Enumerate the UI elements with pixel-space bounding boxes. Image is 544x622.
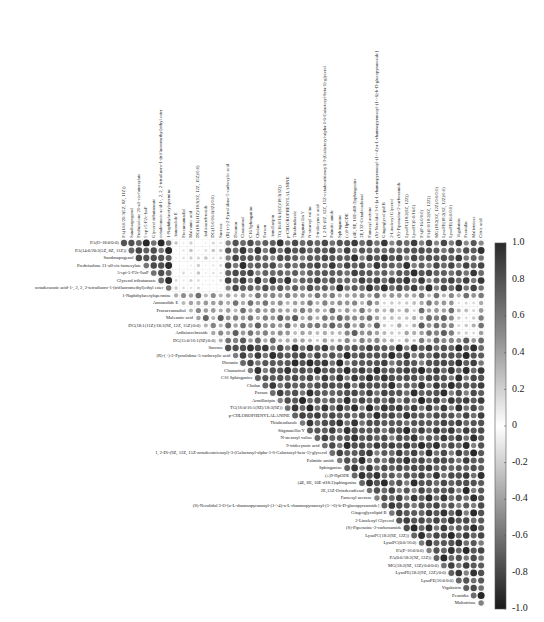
correlation-circle (299, 262, 305, 268)
correlation-circle (352, 278, 358, 284)
correlation-circle (456, 390, 462, 396)
correlation-circle (411, 383, 417, 389)
correlation-circle (456, 525, 462, 531)
correlation-circle (433, 517, 440, 524)
correlation-circle (426, 428, 432, 434)
row-label: (S)-Nerolidol 3-O-[a-L-rhamnopyranosyl-(… (193, 503, 380, 508)
correlation-circle (307, 315, 312, 320)
correlation-circle (292, 315, 298, 321)
correlation-circle (390, 331, 394, 335)
column-label: N-stearoyl valine (307, 206, 312, 238)
correlation-circle (398, 301, 401, 304)
row-label: Gingerglycolipid B (351, 510, 387, 515)
correlation-circle (419, 240, 424, 245)
correlation-circle (189, 249, 193, 253)
correlation-circle (463, 345, 469, 351)
correlation-circle (366, 240, 372, 246)
correlation-circle (373, 412, 380, 419)
correlation-circle (471, 263, 477, 269)
correlation-circle (329, 322, 335, 328)
correlation-circle (263, 293, 268, 298)
correlation-circle (404, 525, 410, 531)
correlation-circle (278, 323, 283, 328)
correlation-circle (404, 397, 410, 403)
correlation-circle (373, 367, 380, 374)
correlation-circle (456, 517, 462, 523)
correlation-circle (448, 532, 455, 539)
correlation-circle (270, 262, 276, 268)
correlation-circle (337, 390, 343, 396)
correlation-circle (174, 241, 178, 245)
correlation-circle (292, 285, 298, 291)
correlation-circle (196, 316, 201, 321)
correlation-circle (396, 442, 402, 448)
correlation-circle (353, 308, 357, 312)
correlation-circle (292, 240, 298, 246)
correlation-circle (471, 547, 477, 553)
correlation-circle (478, 285, 484, 291)
correlation-circle (197, 256, 200, 259)
correlation-circle (478, 592, 485, 599)
correlation-circle (374, 420, 380, 426)
correlation-circle (233, 353, 238, 358)
correlation-circle (456, 338, 461, 343)
correlation-circle (411, 472, 417, 478)
correlation-circle (360, 293, 365, 298)
correlation-circle (382, 428, 388, 434)
correlation-circle (232, 255, 239, 262)
correlation-circle (418, 502, 424, 508)
correlation-circle (449, 240, 454, 245)
correlation-circle (433, 487, 439, 493)
correlation-circle (442, 293, 446, 297)
correlation-circle (248, 300, 254, 306)
correlation-circle (441, 420, 448, 427)
correlation-circle (240, 285, 246, 291)
correlation-circle (396, 383, 402, 389)
correlation-circle (471, 562, 477, 568)
correlation-circle (203, 308, 208, 313)
correlation-circle (426, 533, 432, 539)
correlation-circle (448, 397, 455, 404)
correlation-circle (219, 323, 223, 327)
correlation-circle (405, 301, 408, 304)
correlation-circle (337, 382, 343, 388)
correlation-circle (449, 301, 454, 306)
correlation-circle (307, 420, 314, 427)
correlation-circle (404, 405, 410, 411)
correlation-circle (292, 412, 298, 418)
row-label: PA(O-18:0/0:0) (90, 240, 119, 245)
correlation-circle (433, 442, 440, 449)
correlation-circle (269, 277, 276, 284)
correlation-circle (374, 450, 379, 455)
correlation-circle (457, 331, 461, 335)
correlation-circle (381, 503, 387, 509)
correlation-circle (463, 382, 469, 388)
correlation-circle (382, 338, 386, 342)
correlation-circle (189, 293, 194, 298)
correlation-circle (456, 503, 461, 508)
correlation-circle (397, 323, 401, 327)
correlation-circle (374, 405, 380, 411)
correlation-circle (329, 308, 335, 314)
correlation-circle (411, 420, 417, 426)
correlation-circle (411, 375, 417, 381)
correlation-circle (329, 390, 335, 396)
correlation-circle (374, 397, 380, 403)
colorbar: 1.00.80.60.40.20-0.2-0.4-0.6-0.8-1.0 (495, 236, 528, 613)
correlation-circle (225, 255, 230, 260)
correlation-circle (278, 398, 283, 403)
row-label: Porson (255, 390, 268, 395)
correlation-circle (240, 308, 246, 314)
correlation-circle (456, 397, 462, 403)
correlation-circle (455, 375, 462, 382)
correlation-circle (381, 480, 388, 487)
correlation-circle (426, 518, 432, 524)
correlation-circle (433, 360, 439, 366)
correlation-circle (434, 345, 440, 351)
correlation-circle (374, 293, 380, 299)
correlation-circle (478, 338, 484, 344)
correlation-circle (464, 570, 469, 575)
colorbar-tick: -0.8 (512, 566, 528, 577)
correlation-circle (389, 247, 395, 253)
row-label: PA(14:0/20:3(5Z, 8Z, 11Z)) (75, 248, 127, 254)
